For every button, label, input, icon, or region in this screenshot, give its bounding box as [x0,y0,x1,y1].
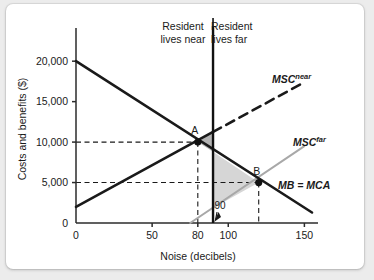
curve-label-msc-near-superscript: near [295,72,312,81]
y-axis-tick-labels: 05,00010,00015,00020,000 [36,55,68,229]
x-axis-tick-label: 150 [296,229,314,241]
y-axis-title: Costs and benefits ($) [16,78,28,181]
region-label-far-line2: lives far [211,33,248,45]
chart-svg: 05,00010,00015,00020,000 05080100150 Noi… [6,4,364,269]
y-axis-tick-label: 0 [62,217,68,229]
y-axis-tick-label: 5,000 [42,176,68,188]
annotation-label-90: 90 [214,200,226,211]
data-point-b [255,179,262,186]
point-label-b: B [253,165,260,177]
figure-card: 05,00010,00015,00020,000 05080100150 Noi… [6,4,364,269]
curve-label-msc-far-base: MSC [293,136,317,148]
region-label-far-line1: Resident [211,20,253,32]
curve-label-mb-mca: MB = MCA [278,179,330,191]
y-axis-tick-label: 20,000 [36,55,68,67]
x-axis-tick-labels: 05080100150 [73,229,313,241]
curve-msc-near-dashed [213,82,304,132]
region-label-near-line1: Resident [162,20,204,32]
curve-label-msc-near-base: MSC [272,73,296,85]
region-label-near: Resident lives near [161,20,206,45]
x-axis-title: Noise (decibels) [160,250,235,262]
chart-plot-area: 05,00010,00015,00020,000 05080100150 Noi… [6,4,364,269]
point-label-a: A [191,124,198,136]
callout-arrow-90 [214,212,221,222]
x-axis-tick-label: 80 [192,229,204,241]
x-axis-tick-label: 100 [219,229,237,241]
curve-msc-near-solid [76,132,213,207]
curve-label-msc-far: MSCfar [293,135,327,149]
data-point-a [194,138,201,145]
curve-label-msc-near: MSCnear [272,72,312,86]
y-axis-tick-label: 15,000 [36,95,68,107]
curve-label-msc-far-superscript: far [316,135,327,144]
x-axis-tick-label: 50 [146,229,158,241]
region-label-near-line2: lives near [161,33,206,45]
region-label-far: Resident lives far [211,20,253,45]
y-axis-tick-label: 10,000 [36,136,68,148]
x-axis-tick-label: 0 [73,229,79,241]
dashed-guide-lines [76,142,259,223]
